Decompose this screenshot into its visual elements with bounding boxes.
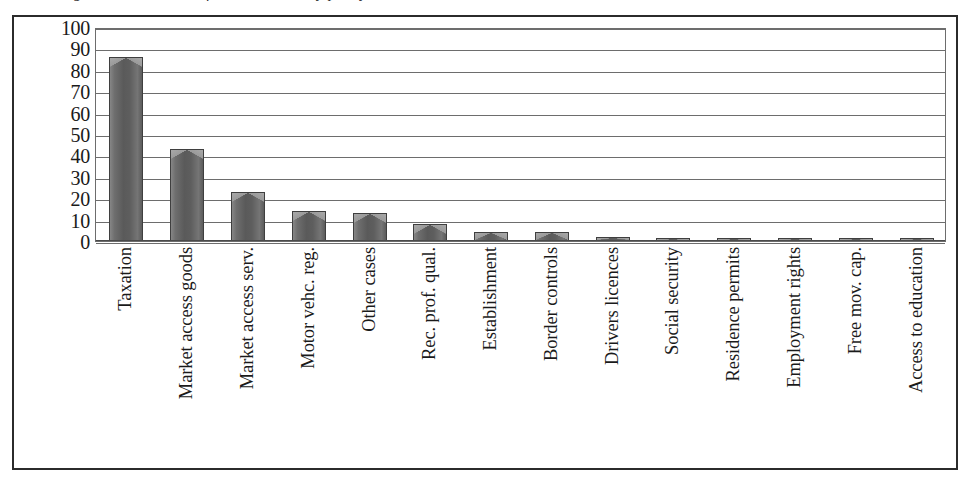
x-tick-label: Social security <box>663 247 682 355</box>
y-axis-ticks: 1009080706050403020100 <box>28 20 90 242</box>
bar-slot <box>765 29 826 241</box>
x-tick-label: Drivers licences <box>602 247 621 365</box>
bar-bevel-highlight <box>293 212 325 221</box>
x-tick-label: Market access serv. <box>238 247 257 389</box>
bar-slot <box>461 29 522 241</box>
x-tick-label: Other cases <box>359 247 378 332</box>
x-axis-line <box>96 240 945 241</box>
x-label-slot: Drivers licences <box>581 245 642 467</box>
x-label-slot: Rec. prof. qual. <box>399 245 460 467</box>
bar-slot <box>643 29 704 241</box>
bar-slot <box>400 29 461 241</box>
y-tick-label: 40 <box>28 146 90 166</box>
y-tick-label: 30 <box>28 168 90 188</box>
y-tick-label: 100 <box>28 18 90 38</box>
x-label-slot: Social security <box>642 245 703 467</box>
bar-slot <box>825 29 886 241</box>
x-label-slot: Border controls <box>521 245 582 467</box>
bar-slot <box>582 29 643 241</box>
bar-bevel-highlight <box>414 225 446 234</box>
gridline <box>96 243 945 244</box>
x-label-slot: Residence permits <box>703 245 764 467</box>
bar[interactable] <box>353 213 387 241</box>
bar[interactable] <box>231 192 265 241</box>
y-tick-label: 20 <box>28 189 90 209</box>
x-label-slot: Employment rights <box>764 245 825 467</box>
bar-slot <box>96 29 157 241</box>
bar[interactable] <box>413 224 447 241</box>
figure-frame: 1009080706050403020100 TaxationMarket ac… <box>12 15 958 470</box>
bar-slot <box>339 29 400 241</box>
y-tick-label: 0 <box>28 232 90 252</box>
x-label-slot: Free mov. cap. <box>824 245 885 467</box>
bar[interactable] <box>109 57 143 241</box>
bar-slot <box>704 29 765 241</box>
y-tick-label: 50 <box>28 125 90 145</box>
bar-slot <box>157 29 218 241</box>
bar[interactable] <box>292 211 326 241</box>
bar-slot <box>218 29 279 241</box>
y-tick-label: 90 <box>28 39 90 59</box>
x-label-slot: Taxation <box>95 245 156 467</box>
y-tick-label: 80 <box>28 61 90 81</box>
x-tick-label: Free mov. cap. <box>846 247 865 354</box>
x-tick-label: Establishment <box>481 247 500 351</box>
bar[interactable] <box>170 149 204 241</box>
figure-caption-clipped: Figure 3. Breakdown of SOLVIT cases by p… <box>60 0 920 2</box>
bar-slot <box>886 29 947 241</box>
x-label-slot: Establishment <box>460 245 521 467</box>
x-label-slot: Market access goods <box>156 245 217 467</box>
x-label-slot: Motor vehc. reg. <box>277 245 338 467</box>
y-tick-label: 60 <box>28 104 90 124</box>
bar-slot <box>522 29 583 241</box>
bar-bevel-highlight <box>110 58 142 67</box>
x-tick-label: Employment rights <box>785 247 804 388</box>
x-label-slot: Other cases <box>338 245 399 467</box>
bar-bevel-highlight <box>232 193 264 202</box>
x-tick-label: Border controls <box>542 247 561 361</box>
bar-series <box>96 29 945 241</box>
figure-container: Figure 3. Breakdown of SOLVIT cases by p… <box>0 0 974 485</box>
bar-slot <box>278 29 339 241</box>
y-tick-label: 70 <box>28 82 90 102</box>
x-tick-label: Market access goods <box>177 247 196 399</box>
x-tick-label: Access to education <box>906 247 925 393</box>
bar-bevel-highlight <box>171 150 203 159</box>
bar-bevel-highlight <box>354 214 386 223</box>
plot-area <box>95 28 946 242</box>
x-label-slot: Market access serv. <box>217 245 278 467</box>
x-tick-label: Taxation <box>116 247 135 311</box>
y-tick-label: 10 <box>28 211 90 231</box>
x-label-slot: Access to education <box>885 245 946 467</box>
x-tick-label: Motor vehc. reg. <box>298 247 317 369</box>
x-tick-label: Residence permits <box>724 247 743 381</box>
x-tick-label: Rec. prof. qual. <box>420 247 439 360</box>
x-axis-labels: TaxationMarket access goodsMarket access… <box>95 245 946 467</box>
